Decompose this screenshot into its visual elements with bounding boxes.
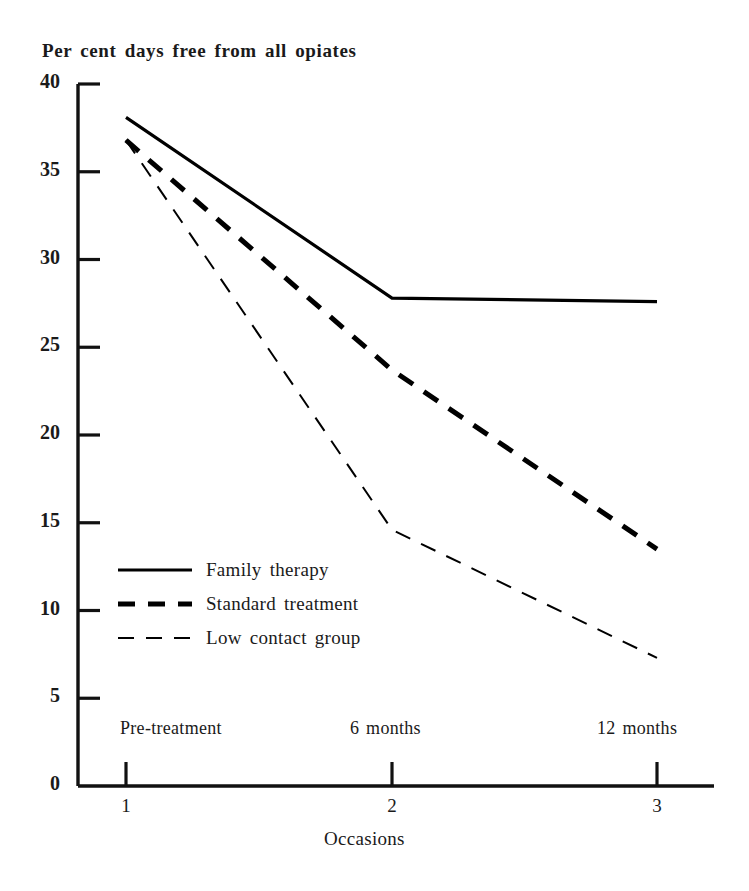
line-chart-plot — [0, 0, 749, 891]
x-axis-tick-number: 3 — [637, 795, 677, 817]
x-axis-title: Occasions — [324, 828, 405, 850]
x-axis-tick-number: 1 — [106, 795, 146, 817]
legend-label: Family therapy — [206, 559, 329, 581]
series-line-standard-treatment — [126, 140, 657, 549]
legend-item: Family therapy — [118, 553, 361, 587]
chart-page: Per cent days free from all opiates 4035… — [0, 0, 749, 891]
y-axis-tick-label: 20 — [20, 421, 60, 444]
x-axis-occasion-label: 6 months — [350, 718, 421, 739]
y-axis-tick-label: 0 — [20, 772, 60, 795]
x-axis-tick-number: 2 — [372, 795, 412, 817]
axis-lines — [78, 84, 714, 786]
legend-label: Standard treatment — [206, 593, 358, 615]
legend-swatch-dashed-thick — [118, 597, 192, 611]
legend-item: Low contact group — [118, 621, 361, 655]
x-axis-ticks — [126, 762, 657, 786]
legend-swatch-solid — [118, 563, 192, 577]
legend-item: Standard treatment — [118, 587, 361, 621]
chart-legend: Family therapyStandard treatmentLow cont… — [118, 553, 361, 655]
x-axis-occasion-label: 12 months — [597, 718, 677, 739]
y-axis-ticks — [78, 84, 100, 698]
y-axis-tick-label: 25 — [20, 333, 60, 356]
x-axis-occasion-label: Pre-treatment — [120, 718, 222, 739]
y-axis-tick-label: 5 — [20, 684, 60, 707]
y-axis-tick-label: 10 — [20, 597, 60, 620]
y-axis-tick-label: 40 — [20, 70, 60, 93]
legend-swatch-dashed-thin — [118, 631, 192, 645]
y-axis-tick-label: 35 — [20, 158, 60, 181]
y-axis-tick-label: 30 — [20, 246, 60, 269]
legend-label: Low contact group — [206, 627, 361, 649]
y-axis-tick-label: 15 — [20, 509, 60, 532]
